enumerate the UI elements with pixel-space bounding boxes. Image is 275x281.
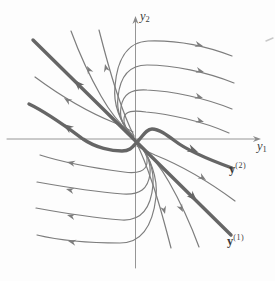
phase-portrait-figure: y2 y1 y(2) y(1) [0,0,275,281]
eigenvector-solution-2-label: y(2) [229,162,246,176]
trajectory-top-3 [121,90,232,136]
flow-direction-arrow-icon [67,238,76,246]
y-axis-label: y2 [140,10,150,24]
trajectory-top-1 [115,41,232,134]
trajectory-steep-up-1 [71,31,131,134]
scan-artifact [266,38,273,41]
eigenvector-solution-1-label: y(1) [227,234,244,248]
trajectory-top-4 [124,111,229,137]
x-axis-label: y1 [257,140,267,154]
